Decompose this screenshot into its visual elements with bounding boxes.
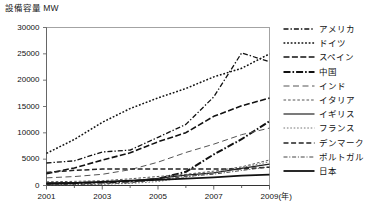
legend-line-sample-icon [283,109,315,119]
legend-line-sample-icon [283,38,315,48]
legend-label: デンマーク [319,138,364,148]
legend-item-2[interactable]: スペイン [283,50,383,64]
legend-label: ポルトガル [319,152,364,162]
legend-label: 中国 [319,67,337,77]
legend-item-6[interactable]: イギリス [283,107,383,121]
x-axis-unit-text: (年) [279,192,292,201]
legend-line-sample-icon [283,138,315,148]
legend-item-10[interactable]: 日本 [283,164,383,178]
x-axis-tick-label: 2001 [27,192,67,201]
plot-frame [47,28,270,186]
legend-label: スペイン [319,52,354,62]
legend-label: イギリス [319,109,355,119]
legend-item-7[interactable]: フランス [283,121,383,135]
legend: アメリカドイツスペイン中国インドイタリアイギリスフランスデンマークポルトガル日本 [283,22,383,178]
x-axis-unit-label: (年) [279,192,292,201]
series-line-1 [47,54,270,154]
legend-item-5[interactable]: イタリア [283,93,383,107]
legend-line-sample-icon [283,152,315,162]
legend-item-3[interactable]: 中国 [283,65,383,79]
legend-item-0[interactable]: アメリカ [283,22,383,36]
legend-item-8[interactable]: デンマーク [283,136,383,150]
legend-item-9[interactable]: ポルトガル [283,150,383,164]
legend-label: フランス [319,123,355,133]
legend-line-sample-icon [283,166,315,176]
legend-label: アメリカ [319,24,355,34]
legend-line-sample-icon [283,95,315,105]
legend-label: イタリア [319,95,355,105]
legend-line-sample-icon [283,123,315,133]
series-line-3 [47,121,270,183]
y-axis-tick-label: 30000 [0,23,40,32]
y-axis-tick-label: 20000 [0,75,40,84]
legend-label: インド [319,81,346,91]
legend-item-4[interactable]: インド [283,79,383,93]
y-axis-tick-label: 25000 [0,49,40,58]
x-axis-tick-label: 2005 [138,192,178,201]
x-axis-tick-label: 2007 [194,192,234,201]
y-axis-tick-label: 5000 [0,154,40,163]
legend-line-sample-icon [283,81,315,91]
legend-item-1[interactable]: ドイツ [283,36,383,50]
legend-line-sample-icon [283,67,315,77]
y-axis-tick-label: 10000 [0,128,40,137]
y-axis-tick-label: 0 [0,181,40,190]
y-axis-tick-label: 15000 [0,102,40,111]
x-axis-tick-label: 2003 [82,192,122,201]
legend-label: 日本 [319,166,337,176]
legend-line-sample-icon [283,24,315,34]
wind-capacity-line-chart: 設備容量 MW 050001000015000200002500030000 2… [0,0,383,214]
legend-line-sample-icon [283,52,315,62]
legend-label: ドイツ [319,38,346,48]
